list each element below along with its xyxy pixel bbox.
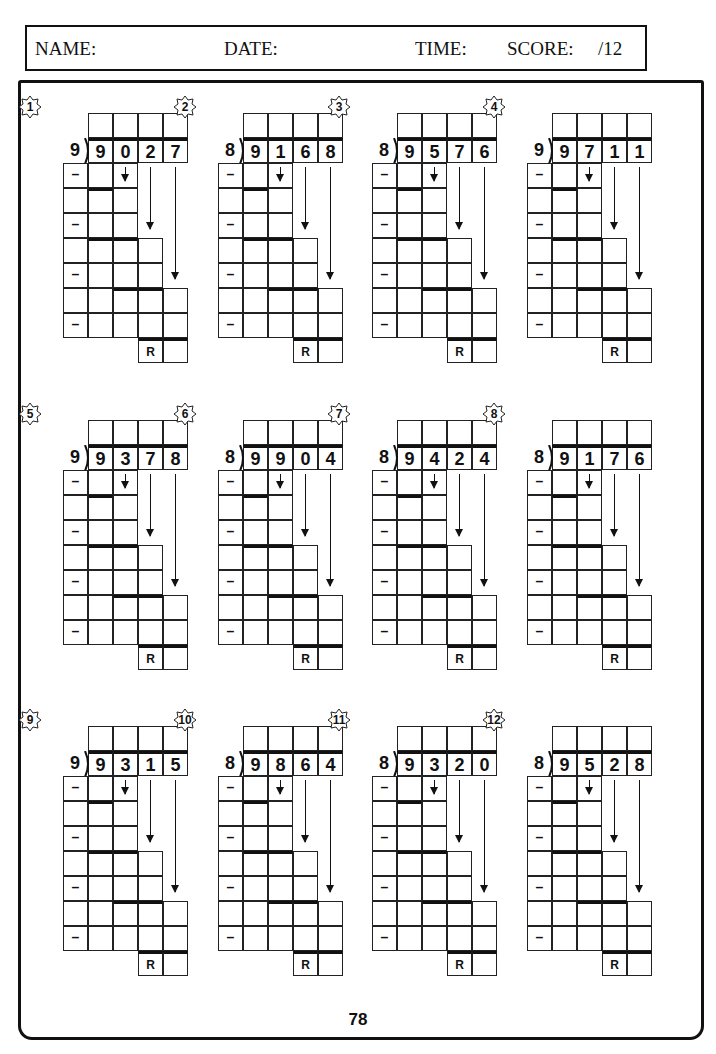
work-cell[interactable] [552, 163, 577, 188]
work-cell[interactable] [268, 901, 293, 926]
work-cell[interactable] [243, 801, 268, 826]
work-cell[interactable] [447, 620, 472, 645]
work-cell[interactable] [268, 620, 293, 645]
quotient-cell[interactable] [422, 726, 447, 751]
quotient-cell[interactable] [627, 726, 652, 751]
work-cell[interactable] [577, 570, 602, 595]
work-cell[interactable] [552, 213, 577, 238]
work-cell[interactable] [218, 851, 243, 876]
work-cell[interactable] [163, 901, 188, 926]
work-cell[interactable] [138, 545, 163, 570]
work-cell[interactable] [372, 288, 397, 313]
work-cell[interactable] [318, 901, 343, 926]
work-cell[interactable] [552, 570, 577, 595]
quotient-cell[interactable] [88, 726, 113, 751]
work-cell[interactable] [422, 570, 447, 595]
work-cell[interactable] [268, 520, 293, 545]
work-cell[interactable] [602, 545, 627, 570]
work-cell[interactable] [268, 876, 293, 901]
work-cell[interactable] [422, 876, 447, 901]
work-cell[interactable] [243, 470, 268, 495]
work-cell[interactable] [527, 545, 552, 570]
work-cell[interactable] [88, 238, 113, 263]
work-cell[interactable] [422, 238, 447, 263]
work-cell[interactable] [397, 495, 422, 520]
work-cell[interactable] [422, 926, 447, 951]
work-cell[interactable] [268, 545, 293, 570]
work-cell[interactable] [397, 545, 422, 570]
work-cell[interactable] [397, 570, 422, 595]
work-cell[interactable] [552, 188, 577, 213]
work-cell[interactable] [397, 620, 422, 645]
work-cell[interactable] [397, 313, 422, 338]
quotient-cell[interactable] [447, 113, 472, 138]
quotient-cell[interactable] [113, 726, 138, 751]
quotient-cell[interactable] [138, 726, 163, 751]
work-cell[interactable] [422, 313, 447, 338]
work-cell[interactable] [552, 520, 577, 545]
work-cell[interactable] [63, 595, 88, 620]
work-cell[interactable] [243, 188, 268, 213]
work-cell[interactable] [268, 313, 293, 338]
quotient-cell[interactable] [113, 420, 138, 445]
work-cell[interactable] [243, 213, 268, 238]
quotient-cell[interactable] [577, 420, 602, 445]
work-cell[interactable] [397, 188, 422, 213]
work-cell[interactable] [577, 620, 602, 645]
work-cell[interactable] [243, 926, 268, 951]
work-cell[interactable] [552, 620, 577, 645]
work-cell[interactable] [243, 263, 268, 288]
work-cell[interactable] [138, 851, 163, 876]
work-cell[interactable] [397, 801, 422, 826]
work-cell[interactable] [63, 188, 88, 213]
work-cell[interactable] [113, 238, 138, 263]
work-cell[interactable] [88, 495, 113, 520]
quotient-cell[interactable] [88, 420, 113, 445]
quotient-cell[interactable] [627, 113, 652, 138]
work-cell[interactable] [63, 288, 88, 313]
work-cell[interactable] [577, 495, 602, 520]
work-cell[interactable] [372, 901, 397, 926]
work-cell[interactable] [552, 495, 577, 520]
work-cell[interactable] [552, 263, 577, 288]
work-cell[interactable] [268, 826, 293, 851]
quotient-cell[interactable] [243, 420, 268, 445]
work-cell[interactable] [88, 876, 113, 901]
work-cell[interactable] [293, 263, 318, 288]
work-cell[interactable] [218, 495, 243, 520]
work-cell[interactable] [88, 801, 113, 826]
work-cell[interactable] [268, 570, 293, 595]
work-cell[interactable] [397, 520, 422, 545]
work-cell[interactable] [113, 826, 138, 851]
work-cell[interactable] [577, 595, 602, 620]
quotient-cell[interactable] [552, 420, 577, 445]
work-cell[interactable] [318, 595, 343, 620]
work-cell[interactable] [527, 188, 552, 213]
work-cell[interactable] [602, 620, 627, 645]
remainder-cell[interactable] [318, 951, 343, 976]
work-cell[interactable] [397, 213, 422, 238]
work-cell[interactable] [447, 288, 472, 313]
work-cell[interactable] [552, 826, 577, 851]
remainder-cell[interactable] [472, 951, 497, 976]
work-cell[interactable] [627, 901, 652, 926]
work-cell[interactable] [577, 213, 602, 238]
work-cell[interactable] [88, 163, 113, 188]
work-cell[interactable] [397, 238, 422, 263]
work-cell[interactable] [88, 545, 113, 570]
work-cell[interactable] [243, 826, 268, 851]
work-cell[interactable] [577, 801, 602, 826]
quotient-cell[interactable] [293, 420, 318, 445]
work-cell[interactable] [113, 520, 138, 545]
work-cell[interactable] [88, 520, 113, 545]
work-cell[interactable] [268, 288, 293, 313]
work-cell[interactable] [552, 545, 577, 570]
work-cell[interactable] [243, 288, 268, 313]
quotient-cell[interactable] [293, 113, 318, 138]
work-cell[interactable] [243, 876, 268, 901]
work-cell[interactable] [422, 213, 447, 238]
work-cell[interactable] [422, 263, 447, 288]
quotient-cell[interactable] [243, 113, 268, 138]
work-cell[interactable] [397, 595, 422, 620]
work-cell[interactable] [577, 188, 602, 213]
